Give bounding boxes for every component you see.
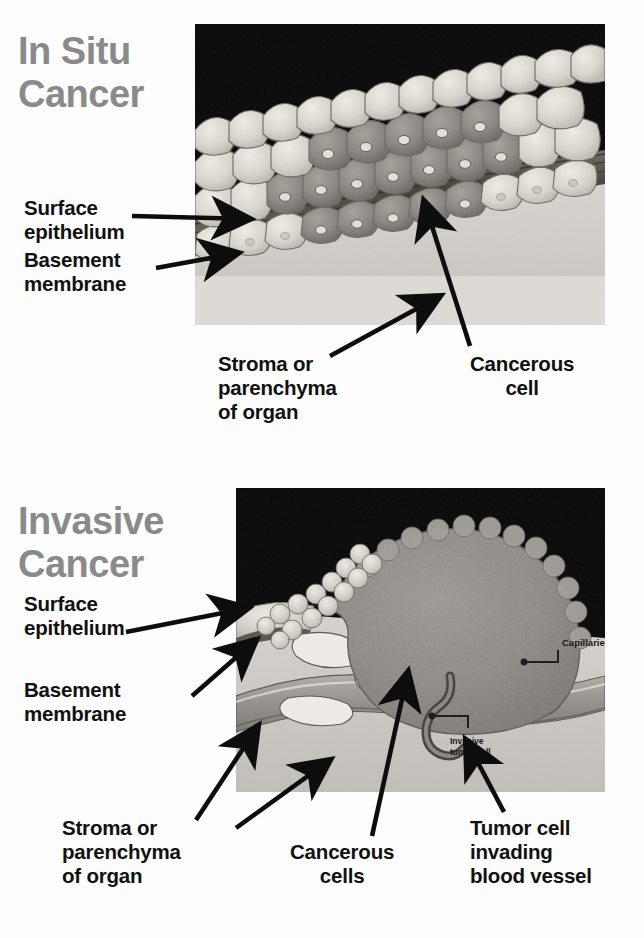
page-title-in-situ-cancer: In Situ Cancer	[18, 30, 144, 115]
page-title-invasive-cancer: Invasive Cancer	[18, 500, 164, 585]
label-basement-membrane-invasive: Basement membrane	[24, 678, 126, 726]
label-stroma-parenchyma-in-situ: Stroma or parenchyma of organ	[218, 352, 337, 425]
diagram-page: Capillaries Invasive tumor cell In Situ …	[0, 0, 644, 938]
label-surface-epithelium-invasive: Surface epithelium	[24, 592, 125, 640]
label-surface-epithelium-in-situ: Surface epithelium	[24, 196, 125, 244]
in-situ-illustration-panel	[195, 24, 605, 325]
label-cancerous-cell-in-situ: Cancerous cell	[470, 352, 574, 400]
label-basement-membrane-in-situ: Basement membrane	[24, 248, 126, 296]
invasive-illustration-panel: Capillaries Invasive tumor cell	[236, 488, 605, 792]
label-cancerous-cells-invasive: Cancerous cells	[290, 840, 394, 888]
label-tumor-cell-invading-blood-vessel: Tumor cell invading blood vessel	[470, 816, 592, 889]
label-stroma-parenchyma-invasive: Stroma or parenchyma of organ	[62, 816, 181, 889]
arrow-surface-epithelium-invasive	[126, 608, 248, 632]
in-situ-illustration	[195, 24, 605, 325]
invasive-illustration: Capillaries Invasive tumor cell	[236, 488, 605, 792]
